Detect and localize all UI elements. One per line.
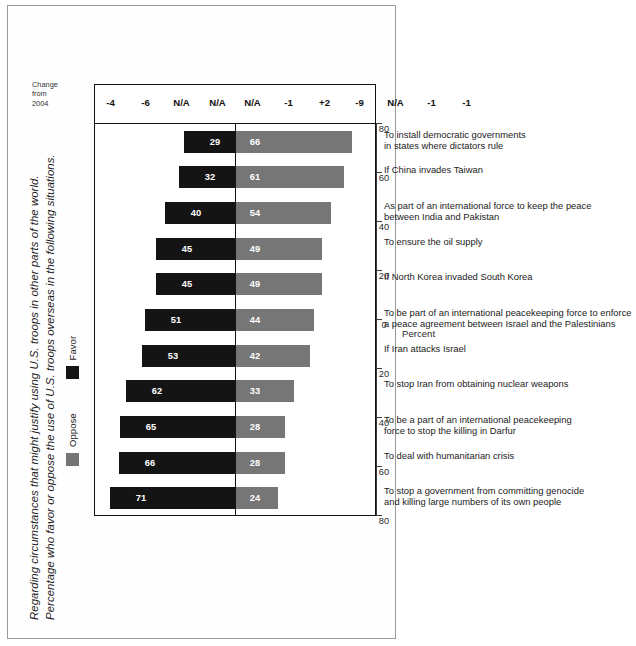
change-value-text: +2 bbox=[319, 98, 330, 109]
axis-tick-label: 40 bbox=[370, 222, 398, 232]
bar-value-favor: 51 bbox=[171, 315, 181, 325]
change-from-2004-value: -1 bbox=[283, 83, 294, 123]
bar-value-oppose: 42 bbox=[250, 351, 260, 361]
bar-value-favor: 40 bbox=[190, 208, 200, 218]
axis-tick-label: 60 bbox=[370, 173, 398, 183]
bar-favor: 66 bbox=[119, 452, 235, 474]
bar-oppose: 42 bbox=[236, 345, 310, 367]
axis-tick-label: 60 bbox=[370, 467, 398, 477]
category-label: To stop Iran from obtaining nuclear weap… bbox=[384, 378, 636, 389]
bar-value-favor: 65 bbox=[146, 422, 156, 432]
bar-favor: 29 bbox=[184, 131, 235, 153]
change-from-2004-value: -6 bbox=[140, 83, 151, 123]
bar-oppose: 54 bbox=[236, 202, 331, 224]
legend-item-favor: Favor bbox=[66, 336, 79, 380]
axis-tick-label: 40 bbox=[370, 418, 398, 428]
category-label: As part of an international force to kee… bbox=[384, 200, 636, 223]
bar-oppose: 28 bbox=[236, 452, 285, 474]
zero-baseline bbox=[235, 124, 236, 516]
change-from-2004-value: +2 bbox=[319, 83, 330, 123]
bar-favor: 65 bbox=[120, 416, 235, 438]
bar-value-oppose: 28 bbox=[250, 422, 260, 432]
bar-value-favor: 45 bbox=[182, 279, 192, 289]
change-value-text: -9 bbox=[356, 98, 365, 109]
bar-value-favor: 53 bbox=[167, 351, 177, 361]
bar-value-favor: 32 bbox=[204, 172, 214, 182]
legend: Oppose Favor bbox=[66, 336, 79, 466]
bar-oppose: 28 bbox=[236, 416, 285, 438]
category-label: To install democratic governments in sta… bbox=[384, 129, 636, 152]
bar-value-favor: 66 bbox=[145, 458, 155, 468]
category-label: To stop a government from committing gen… bbox=[384, 485, 636, 508]
bar-value-oppose: 33 bbox=[250, 386, 260, 396]
axis-tick-label: 0 bbox=[370, 320, 398, 330]
bar-value-favor: 62 bbox=[152, 386, 162, 396]
legend-label-favor: Favor bbox=[67, 336, 78, 361]
bar-value-oppose: 49 bbox=[250, 244, 260, 254]
change-from-2004-value: N/A bbox=[212, 83, 223, 123]
figure: Regarding circumstances that might justi… bbox=[8, 6, 396, 636]
axis-tick-label: 20 bbox=[370, 369, 398, 379]
bar-oppose: 24 bbox=[236, 487, 278, 509]
legend-item-oppose: Oppose bbox=[66, 413, 79, 466]
plot-area: 7124662865286233534251444549454940543261… bbox=[94, 84, 376, 516]
change-column-header: Change from 2004 bbox=[32, 80, 92, 108]
legend-swatch-oppose-icon bbox=[66, 453, 79, 466]
bar-favor: 53 bbox=[142, 345, 235, 367]
change-from-2004-value: -1 bbox=[461, 83, 472, 123]
change-from-2004-value: N/A bbox=[176, 83, 187, 123]
bar-oppose: 49 bbox=[236, 273, 322, 295]
title-line-1: Regarding circumstances that might justi… bbox=[26, 20, 42, 620]
rotated-figure-canvas: Regarding circumstances that might justi… bbox=[8, 6, 396, 636]
bar-favor: 45 bbox=[156, 273, 235, 295]
category-label: If Iran attacks Israel bbox=[384, 343, 636, 354]
change-value-text: -1 bbox=[427, 98, 436, 109]
change-value-text: -4 bbox=[106, 98, 115, 109]
figure-title: Regarding circumstances that might justi… bbox=[26, 20, 59, 620]
bar-oppose: 33 bbox=[236, 380, 294, 402]
change-from-2004-value: -1 bbox=[426, 83, 437, 123]
category-label: If China invades Taiwan bbox=[384, 164, 636, 175]
bar-value-oppose: 61 bbox=[250, 172, 260, 182]
change-value-text: N/A bbox=[245, 98, 262, 109]
bar-value-favor: 45 bbox=[182, 244, 192, 254]
change-column: -4-6N/AN/AN/A-1+2-9N/A-1-1 bbox=[94, 84, 376, 124]
bar-favor: 62 bbox=[126, 380, 235, 402]
bar-favor: 32 bbox=[179, 166, 235, 188]
bar-value-favor: 29 bbox=[210, 137, 220, 147]
change-from-2004-value: -4 bbox=[105, 83, 116, 123]
category-label: If North Korea invaded South Korea bbox=[384, 271, 636, 282]
change-value-text: -1 bbox=[284, 98, 293, 109]
bar-value-oppose: 44 bbox=[250, 315, 260, 325]
category-label: To be part of an international peacekeep… bbox=[384, 307, 636, 330]
category-label: To ensure the oil supply bbox=[384, 236, 636, 247]
bar-oppose: 66 bbox=[236, 131, 352, 153]
bar-oppose: 44 bbox=[236, 309, 314, 331]
bar-value-oppose: 54 bbox=[250, 208, 260, 218]
legend-swatch-favor-icon bbox=[66, 366, 79, 379]
percent-axis: Percent 80604020020406080 bbox=[376, 84, 416, 516]
change-from-2004-value: N/A bbox=[247, 83, 258, 123]
change-value-text: -6 bbox=[142, 98, 151, 109]
change-value-text: -1 bbox=[462, 98, 471, 109]
change-from-2004-value: -9 bbox=[354, 83, 365, 123]
change-value-text: N/A bbox=[209, 98, 226, 109]
bar-favor: 71 bbox=[110, 487, 235, 509]
axis-tick-label: 20 bbox=[370, 271, 398, 281]
axis-tick-label: 80 bbox=[370, 516, 398, 526]
bar-oppose: 49 bbox=[236, 238, 322, 260]
bar-value-oppose: 24 bbox=[250, 493, 260, 503]
bar-favor: 45 bbox=[156, 238, 235, 260]
axis-tick-label: 80 bbox=[370, 124, 398, 134]
axis-title: Percent bbox=[402, 328, 435, 339]
category-label: To deal with humanitarian crisis bbox=[384, 450, 636, 461]
bar-oppose: 61 bbox=[236, 166, 344, 188]
bar-value-oppose: 49 bbox=[250, 279, 260, 289]
bar-value-oppose: 28 bbox=[250, 458, 260, 468]
bar-value-oppose: 66 bbox=[250, 137, 260, 147]
category-label: To be a part of an international peaceke… bbox=[384, 414, 636, 437]
title-line-2: Percentage who favor or oppose the use o… bbox=[42, 20, 58, 620]
bar-favor: 51 bbox=[145, 309, 235, 331]
change-value-text: N/A bbox=[173, 98, 190, 109]
